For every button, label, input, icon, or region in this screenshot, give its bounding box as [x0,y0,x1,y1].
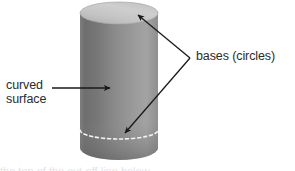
curved-surface-label-line2: surface [6,93,46,107]
figure-canvas: curved surface bases (circles) the top o… [0,0,295,171]
curved-surface-label-line1: curved [6,79,46,93]
top-base-ellipse [80,2,158,24]
bases-label: bases (circles) [196,50,275,64]
page-bleed-text: the top of the cut-off line below [0,166,295,171]
curved-surface-label: curved surface [6,79,46,106]
bottom-shadow [80,120,158,160]
cylinder-body [80,13,158,160]
